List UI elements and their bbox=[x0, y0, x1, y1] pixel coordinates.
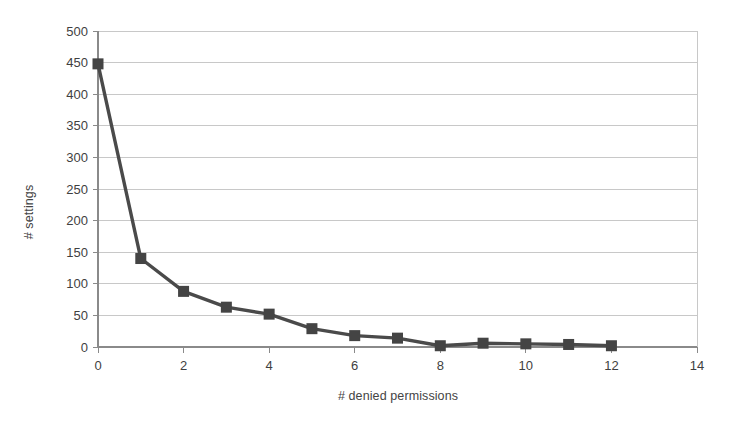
x-tick-label: 0 bbox=[94, 358, 101, 373]
x-axis-title-text: # denied permissions bbox=[338, 389, 458, 403]
line-chart-plot: 050100150200250300350400450500 024681012… bbox=[0, 0, 729, 424]
y-tick-label: 350 bbox=[66, 118, 88, 133]
y-axis-title-text: # settings bbox=[22, 185, 36, 240]
series-line bbox=[98, 64, 611, 346]
x-tick-label: 6 bbox=[351, 358, 358, 373]
data-point-marker bbox=[221, 302, 232, 313]
data-point-marker bbox=[520, 338, 531, 349]
data-point-marker bbox=[93, 58, 104, 69]
x-tick-label: 12 bbox=[604, 358, 618, 373]
y-tick-label: 450 bbox=[66, 55, 88, 70]
x-axis-title: # denied permissions bbox=[98, 386, 698, 404]
y-tick-label: 150 bbox=[66, 245, 88, 260]
data-point-marker bbox=[349, 330, 360, 341]
y-tick-label: 250 bbox=[66, 182, 88, 197]
data-point-marker bbox=[478, 338, 489, 349]
data-point-marker bbox=[135, 253, 146, 264]
y-axis-ticks: 050100150200250300350400450500 bbox=[66, 24, 98, 355]
y-tick-label: 100 bbox=[66, 276, 88, 291]
data-point-marker bbox=[606, 340, 617, 351]
data-point-marker bbox=[392, 333, 403, 344]
y-tick-label: 400 bbox=[66, 87, 88, 102]
chart-container: 050100150200250300350400450500 024681012… bbox=[0, 0, 729, 424]
x-tick-label: 10 bbox=[519, 358, 533, 373]
data-point-markers bbox=[93, 58, 617, 351]
y-tick-label: 0 bbox=[81, 340, 88, 355]
data-point-marker bbox=[306, 323, 317, 334]
data-point-marker bbox=[178, 286, 189, 297]
y-tick-label: 500 bbox=[66, 24, 88, 39]
data-point-marker bbox=[264, 309, 275, 320]
data-point-marker bbox=[563, 339, 574, 350]
data-series-line bbox=[98, 64, 611, 346]
y-tick-label: 50 bbox=[74, 308, 88, 323]
x-tick-label: 8 bbox=[437, 358, 444, 373]
x-tick-label: 4 bbox=[266, 358, 273, 373]
x-tick-label: 14 bbox=[690, 358, 704, 373]
y-axis-title: # settings bbox=[14, 0, 44, 424]
gridlines-group bbox=[98, 31, 697, 347]
y-tick-label: 300 bbox=[66, 150, 88, 165]
x-tick-label: 2 bbox=[180, 358, 187, 373]
data-point-marker bbox=[435, 340, 446, 351]
y-tick-label: 200 bbox=[66, 213, 88, 228]
